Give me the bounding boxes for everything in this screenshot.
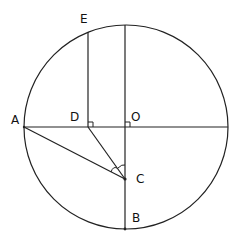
label-C: C bbox=[136, 172, 144, 186]
geometry-diagram: A B C D E O bbox=[0, 0, 238, 241]
diagram-svg: A B C D E O bbox=[0, 0, 238, 241]
angle-arc-DCO bbox=[118, 165, 125, 168]
point-C-dot bbox=[123, 177, 126, 180]
label-E: E bbox=[80, 12, 88, 26]
label-A: A bbox=[11, 113, 20, 127]
point-B-dot bbox=[124, 228, 127, 231]
label-D: D bbox=[70, 110, 79, 124]
angle-arc-ACD bbox=[111, 168, 117, 173]
segment-DC bbox=[88, 127, 125, 179]
label-O: O bbox=[131, 110, 140, 124]
right-angle-mark-D bbox=[88, 122, 93, 127]
right-angle-mark-O bbox=[125, 122, 130, 127]
point-A-dot bbox=[23, 126, 25, 128]
segment-AC bbox=[24, 127, 125, 179]
label-B: B bbox=[132, 211, 140, 225]
